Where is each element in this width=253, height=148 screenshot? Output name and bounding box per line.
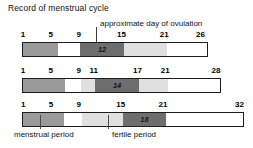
bar-segment-light — [139, 79, 168, 92]
bar-segment-fertile: 14 — [95, 79, 139, 92]
tick-label: 26 — [196, 30, 205, 39]
tick-label: 9 — [76, 100, 80, 109]
bar-segment-white — [58, 43, 80, 56]
legend-menstrual-period: menstrual period — [14, 130, 74, 139]
bar-segment-white — [167, 43, 207, 56]
tick-label: 1 — [21, 100, 25, 109]
tick-label: 5 — [49, 66, 53, 75]
page-title: Record of menstrual cycle — [8, 3, 109, 13]
tick-label: 5 — [49, 30, 53, 39]
tick-label: 1 — [21, 66, 25, 75]
bar-segment-white — [168, 79, 220, 92]
cycle-row-2: 15911172128 14 — [0, 66, 253, 77]
tick-label: 21 — [161, 66, 170, 75]
ovulation-day-value: 18 — [140, 116, 148, 124]
ovulation-callout-label: approximate day of ovulation — [100, 19, 202, 28]
tick-label: 1 — [21, 30, 25, 39]
cycle-bar-3: 18 — [22, 112, 244, 127]
tick-label: 21 — [159, 100, 168, 109]
tick-label: 17 — [133, 66, 142, 75]
cycle-bar-1: 12 — [22, 42, 208, 57]
tick-label: 32 — [235, 100, 244, 109]
ovulation-day-value: 14 — [113, 82, 121, 90]
tick-label: 11 — [89, 66, 97, 75]
tick-label: 9 — [76, 66, 80, 75]
tick-label: 15 — [116, 100, 125, 109]
tick-label: 28 — [212, 66, 221, 75]
bar-segment-light — [81, 79, 95, 92]
legend-fertile-period: fertile period — [112, 130, 156, 139]
menstrual-cycle-chart: Record of menstrual cycle approximate da… — [0, 0, 253, 148]
bar-segment-white — [166, 113, 243, 126]
bar-segment-light — [124, 43, 166, 56]
tick-axis-1: 159152126 — [0, 30, 253, 41]
cycle-row-3: 159152132 18 — [0, 100, 253, 111]
fertile-period-leader-line — [108, 115, 109, 129]
bar-segment-menstrual — [23, 79, 65, 92]
menstrual-period-leader-line — [40, 115, 41, 129]
tick-axis-2: 15911172128 — [0, 66, 253, 77]
tick-label: 15 — [117, 30, 126, 39]
bar-segment-menstrual — [23, 113, 64, 126]
tick-axis-3: 159152132 — [0, 100, 253, 111]
cycle-bar-2: 14 — [22, 78, 221, 93]
tick-label: 5 — [49, 100, 53, 109]
bar-segment-fertile: 18 — [123, 113, 166, 126]
bar-segment-white — [64, 113, 83, 126]
bar-segment-light — [82, 113, 123, 126]
ovulation-day-value: 12 — [98, 46, 106, 54]
tick-label: 9 — [76, 30, 80, 39]
bar-segment-menstrual — [23, 43, 58, 56]
cycle-row-1: 159152126 12 — [0, 30, 253, 41]
bar-segment-fertile: 12 — [80, 43, 124, 56]
tick-label: 21 — [160, 30, 169, 39]
bar-segment-white — [65, 79, 81, 92]
